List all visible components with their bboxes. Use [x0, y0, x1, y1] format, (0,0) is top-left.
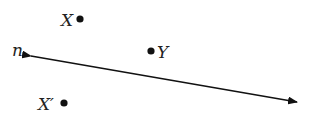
line-n [31, 56, 297, 102]
point-x-dot [76, 15, 83, 22]
line-label-n: n [12, 40, 23, 60]
point-y-label: Y [157, 42, 170, 62]
point-xprime-label: X′ [36, 94, 54, 114]
point-xprime-dot [60, 99, 67, 106]
point-y-dot [147, 47, 154, 54]
point-x-label: X [59, 10, 74, 30]
points-group: XYX′ [36, 10, 170, 114]
geometry-diagram: n XYX′ [0, 0, 309, 120]
